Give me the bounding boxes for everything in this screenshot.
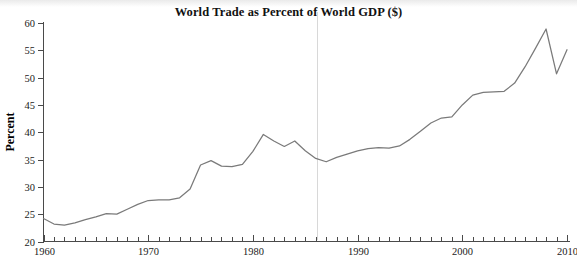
- y-tick-label: 25: [25, 209, 36, 220]
- y-tick-label: 30: [25, 182, 36, 193]
- x-tick-label: 2000: [452, 246, 473, 257]
- chart-figure: World Trade as Percent of World GDP ($) …: [0, 0, 577, 268]
- x-tick-label: 1980: [243, 246, 264, 257]
- y-tick-label: 45: [25, 100, 36, 111]
- y-tick-label: 50: [25, 73, 36, 84]
- y-tick-label: 60: [25, 18, 36, 29]
- y-tick-label: 35: [25, 155, 36, 166]
- data-series-line: [44, 29, 568, 225]
- x-tick-label: 1970: [138, 246, 159, 257]
- x-axis-minor-ticks: [45, 237, 568, 242]
- y-tick-label: 55: [25, 45, 36, 56]
- x-tick-label: 1990: [348, 246, 369, 257]
- y-tick-label: 40: [25, 127, 36, 138]
- y-axis-title: Percent: [3, 112, 17, 151]
- x-tick-label: 1960: [34, 246, 55, 257]
- line-chart-svg: 202530354045505560 196019701980199020002…: [0, 0, 577, 268]
- x-tick-label: 2010: [557, 246, 577, 257]
- y-axis-ticks: [38, 24, 44, 243]
- y-axis-tick-labels: 202530354045505560: [25, 18, 36, 248]
- x-axis-tick-labels: 196019701980199020002010: [34, 246, 577, 257]
- y-axis: 202530354045505560: [25, 18, 44, 248]
- x-axis: 196019701980199020002010: [34, 235, 577, 258]
- plot-area: 202530354045505560 196019701980199020002…: [0, 0, 577, 268]
